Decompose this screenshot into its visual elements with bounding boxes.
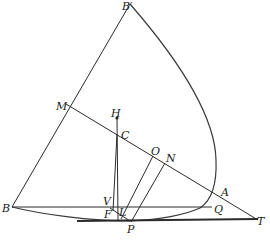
line-M-T xyxy=(66,104,258,220)
label-F: F xyxy=(103,208,112,221)
label-H: H xyxy=(110,107,121,120)
label-P: P xyxy=(126,223,135,236)
label-B: B xyxy=(1,202,10,215)
label-L: L xyxy=(118,206,126,219)
line-H-vertical xyxy=(117,118,118,221)
geometry-diagram: B′ M H C O N A V B Q F L P T xyxy=(0,0,270,240)
label-A: A xyxy=(220,186,229,199)
line-B-Bprime xyxy=(12,4,130,207)
label-Q: Q xyxy=(214,203,223,216)
line-C-F xyxy=(113,134,117,211)
label-C: C xyxy=(121,129,130,142)
label-V: V xyxy=(103,195,112,208)
line-N-P xyxy=(131,163,165,222)
label-O: O xyxy=(151,145,160,158)
label-T: T xyxy=(257,215,266,228)
label-N: N xyxy=(165,152,176,165)
label-B-prime: B′ xyxy=(121,0,133,13)
label-M: M xyxy=(55,100,68,113)
